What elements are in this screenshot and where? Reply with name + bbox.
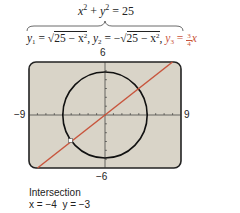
xmin-label: −9 — [14, 109, 25, 120]
eq-rhs: = 25 — [109, 4, 134, 18]
xmax-label: 9 — [184, 109, 190, 120]
y2-radicand: 25 − x2 — [127, 31, 160, 44]
y1-radicand: 25 − x2 — [54, 31, 87, 44]
y2-radicand-text: 25 − x — [127, 32, 157, 44]
result-y-label: y = — [62, 199, 78, 210]
eq-y1: y1 = √25 − x2, — [27, 32, 93, 44]
y3-x: x — [192, 32, 197, 44]
intersection-cursor — [69, 139, 73, 143]
y1-radicand-text: 25 − x — [54, 32, 84, 44]
result-y-value: −3 — [79, 199, 90, 210]
y3-prefix: = — [174, 32, 186, 44]
result-x-label: x = — [29, 199, 45, 210]
eq-y2: y2 = −√25 − x2, — [93, 32, 165, 44]
ymin-label: −6 — [96, 171, 107, 182]
result-values: x = −4 y = −3 — [29, 199, 90, 211]
result-title: Intersection — [29, 187, 90, 199]
y2-prefix: = − — [102, 32, 121, 44]
result-x-value: −4 — [45, 199, 56, 210]
eq-plus: + — [87, 4, 100, 18]
ymax-label: 6 — [100, 47, 106, 58]
circle-equation: x2 + y2 = 25 — [0, 3, 212, 19]
y1-prefix: = — [36, 32, 48, 44]
brace-icon — [26, 20, 186, 32]
eq-y3: y3 = 34x — [165, 32, 196, 44]
intersection-result: Intersection x = −4 y = −3 — [29, 187, 90, 211]
graph-screen — [28, 61, 183, 170]
function-equations: y1 = √25 − x2, y2 = −√25 − x2, y3 = 34x — [27, 32, 197, 48]
